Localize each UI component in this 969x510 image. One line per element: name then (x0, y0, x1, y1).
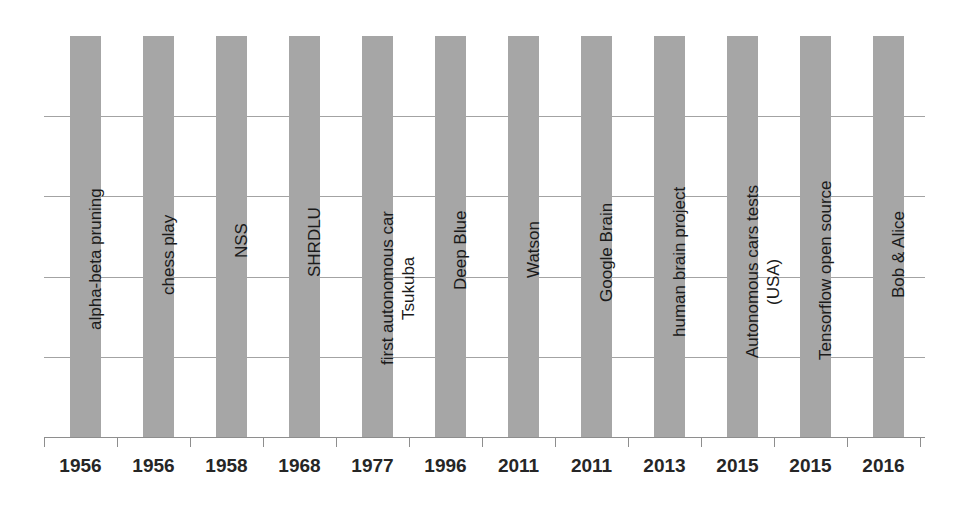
bar-label: Google Brain (598, 203, 615, 302)
bar-chart-ai-milestones-timeline: alpha-beta pruningchess playNSSSHRDLUfir… (0, 0, 969, 510)
year-label: 2016 (847, 455, 920, 477)
year-label: 2011 (555, 455, 628, 477)
x-axis-line (44, 437, 925, 438)
axis-tick (336, 437, 337, 447)
axis-tick (482, 437, 483, 447)
year-label: 2015 (701, 455, 774, 477)
bar-label: Watson (525, 221, 542, 278)
year-label: 2013 (628, 455, 701, 477)
axis-tick (263, 437, 264, 447)
axis-tick (409, 437, 410, 447)
axis-tick (555, 437, 556, 447)
gridline (44, 116, 925, 117)
bar-label: alpha-beta pruning (87, 188, 104, 330)
bar-label: chess play (160, 215, 177, 295)
bar-label: SHRDLU (306, 207, 323, 277)
axis-tick (44, 437, 45, 447)
bar-label-secondary: (USA) (765, 259, 782, 305)
bar-label: Deep Blue (452, 211, 469, 290)
bar-label: Bob & Alice (890, 211, 907, 298)
bar-label: Autonomous cars tests (744, 185, 761, 358)
year-label: 2015 (774, 455, 847, 477)
bar-label: Tensorflow open source (817, 180, 834, 360)
axis-tick (774, 437, 775, 447)
year-label: 1996 (409, 455, 482, 477)
bar-label: NSS (233, 223, 250, 258)
year-label: 1968 (263, 455, 336, 477)
axis-tick (117, 437, 118, 447)
year-label: 1958 (190, 455, 263, 477)
year-label: 1977 (336, 455, 409, 477)
gridline (44, 357, 925, 358)
year-label: 1956 (44, 455, 117, 477)
gridline (44, 196, 925, 197)
bar-label-secondary: Tsukuba (400, 257, 417, 320)
year-label: 1956 (117, 455, 190, 477)
axis-tick (190, 437, 191, 447)
axis-tick (701, 437, 702, 447)
axis-tick (628, 437, 629, 447)
axis-tick (920, 437, 921, 447)
bar-label: human brain project (671, 187, 688, 337)
bar-label: first autonomous car (379, 211, 396, 365)
axis-tick (847, 437, 848, 447)
year-label: 2011 (482, 455, 555, 477)
